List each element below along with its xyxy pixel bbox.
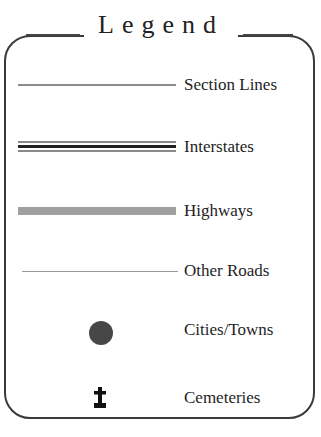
legend-label: Other Roads <box>184 259 269 283</box>
legend-label: Section Lines <box>184 73 277 97</box>
title-dash-right <box>243 34 293 36</box>
legend-label: Cities/Towns <box>184 318 273 342</box>
city-dot-icon <box>89 321 113 345</box>
legend-item-cities-towns: Cities/Towns <box>0 322 321 346</box>
interstate-line-symbol-icon <box>18 141 176 152</box>
title-dash-left <box>26 34 80 36</box>
cemetery-cross-icon <box>92 386 108 410</box>
legend-label: Cemeteries <box>184 386 260 410</box>
legend-item-cemeteries: Cemeteries <box>0 386 321 410</box>
legend-item-other-roads: Other Roads <box>0 259 321 283</box>
section-line-symbol-icon <box>18 84 176 86</box>
legend-item-section-lines: Section Lines <box>0 73 321 97</box>
legend-title: Legend <box>82 10 240 40</box>
legend-item-highways: Highways <box>0 199 321 223</box>
legend-item-interstates: Interstates <box>0 135 321 159</box>
legend-label: Interstates <box>184 135 254 159</box>
other-road-line-symbol-icon <box>22 271 178 272</box>
legend-label: Highways <box>184 199 253 223</box>
highway-line-symbol-icon <box>18 207 176 215</box>
